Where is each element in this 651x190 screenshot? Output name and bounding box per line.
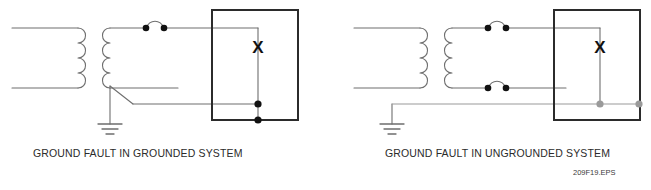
earth-ground-icon (380, 124, 404, 134)
junction-dot-box-bottom (254, 116, 261, 123)
figure-ground-fault-diagrams: X (0, 0, 651, 190)
junction-dot-return (254, 100, 261, 107)
load-label-x: X (594, 38, 606, 57)
upper-contact-dot-left (485, 25, 492, 32)
contact-dot-left (143, 25, 150, 32)
gray-junction-dot-load (596, 100, 603, 107)
lower-contact-dot-left (485, 85, 492, 92)
secondary-coil (445, 28, 453, 88)
load-label-x: X (252, 38, 264, 57)
caption-ungrounded-system: GROUND FAULT IN UNGROUNDED SYSTEM (385, 147, 610, 159)
diagram-ungrounded-system: X (326, 0, 651, 145)
secondary-coil (103, 28, 111, 88)
primary-coil (420, 28, 428, 88)
figure-file-code: 209F19.EPS (573, 168, 616, 177)
contact-dot-right (161, 25, 168, 32)
diagram-grounded-system: X (0, 0, 326, 145)
lower-contact-dot-right (503, 85, 510, 92)
primary-coil (78, 28, 86, 88)
upper-contact-dot-right (503, 25, 510, 32)
earth-ground-icon (98, 124, 122, 134)
caption-grounded-system: GROUND FAULT IN GROUNDED SYSTEM (33, 147, 243, 159)
fault-arc-line (110, 86, 133, 104)
gray-junction-dot-right (635, 100, 642, 107)
